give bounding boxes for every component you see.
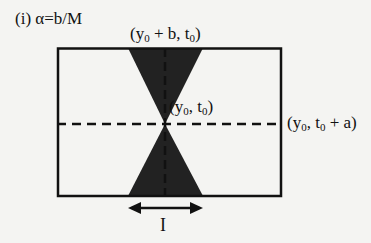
top-point-label: (y0 + b, t0) (130, 25, 201, 42)
arrow-left-head-icon (128, 202, 141, 214)
arrow-right-head-icon (190, 202, 203, 214)
center-point-label: (y0, t0) (169, 98, 213, 115)
interval-label: I (160, 216, 166, 234)
right-point-label: (y0, t0 + a) (287, 114, 357, 131)
figure-title: (i) α=b/M (15, 10, 82, 27)
